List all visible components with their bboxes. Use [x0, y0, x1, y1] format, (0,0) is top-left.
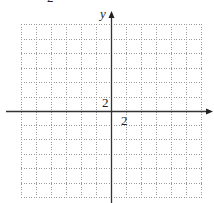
y-axis-label: y — [100, 7, 106, 20]
y-tick-label: 2 — [102, 96, 109, 109]
problem-number-fragment: 2 — [47, 0, 54, 4]
coordinate-plane: 2 y 2 2 — [0, 0, 214, 203]
x-tick-label: 2 — [121, 114, 128, 127]
y-axis-arrow-icon — [109, 11, 115, 18]
x-axis-arrow-icon — [206, 109, 213, 115]
